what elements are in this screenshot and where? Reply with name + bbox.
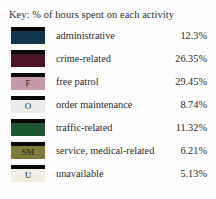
legend-row-list: administrative 12.3% crime-related 26.35… <box>0 24 216 185</box>
legend-panel: Key: % of hours spent on each activity a… <box>0 0 216 199</box>
legend-item-value: 29.45% <box>163 76 216 87</box>
legend-row: F free patrol 29.45% <box>0 70 216 93</box>
legend-item-label: administrative <box>56 30 163 41</box>
legend-row: U unavailable 5.13% <box>0 162 216 185</box>
color-swatch-free-patrol: F <box>11 73 45 90</box>
color-swatch-administrative <box>11 27 45 44</box>
color-swatch-traffic-related <box>11 119 45 136</box>
legend-row: SM service, medical-related 6.21% <box>0 139 216 162</box>
legend-item-label: unavailable <box>56 168 163 179</box>
swatch-fill <box>11 123 45 136</box>
color-swatch-unavailable: U <box>11 165 45 182</box>
color-swatch-order-maintenance: O <box>11 96 45 113</box>
legend-row: O order maintenance 8.74% <box>0 93 216 116</box>
legend-item-label: free patrol <box>56 76 163 87</box>
legend-item-label: traffic-related <box>56 122 163 133</box>
swatch-fill <box>11 54 45 67</box>
color-swatch-crime-related <box>11 50 45 67</box>
swatch-letter: SM <box>22 148 34 157</box>
legend-item-value: 6.21% <box>163 145 216 156</box>
legend-item-label: order maintenance <box>56 99 163 110</box>
color-swatch-service-medical-related: SM <box>11 142 45 159</box>
legend-row: administrative 12.3% <box>0 24 216 47</box>
legend-item-value: 12.3% <box>163 30 216 41</box>
legend-row: crime-related 26.35% <box>0 47 216 70</box>
legend-item-label: service, medical-related <box>56 145 163 156</box>
legend-row: traffic-related 11.32% <box>0 116 216 139</box>
legend-item-value: 26.35% <box>163 53 216 64</box>
legend-item-value: 8.74% <box>163 99 216 110</box>
swatch-letter: O <box>25 102 31 111</box>
legend-item-value: 11.32% <box>163 122 216 133</box>
legend-item-label: crime-related <box>56 53 163 64</box>
legend-title: Key: % of hours spent on each activity <box>9 9 174 20</box>
swatch-letter: F <box>26 79 31 88</box>
swatch-letter: U <box>25 171 31 180</box>
legend-item-value: 5.13% <box>163 168 216 179</box>
swatch-fill <box>11 31 45 44</box>
